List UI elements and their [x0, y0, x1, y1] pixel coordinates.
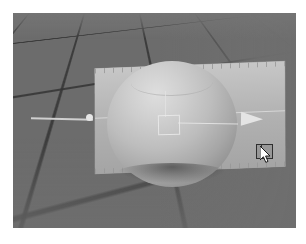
- manipulator-axis-vertical[interactable]: [165, 91, 166, 117]
- perspective-viewport[interactable]: [13, 13, 296, 228]
- sphere-contact-shadow: [117, 163, 227, 183]
- grid-horizon-fade: [13, 13, 296, 39]
- manipulator-arrow-cone-icon[interactable]: [241, 112, 263, 126]
- manipulator-handle-dot-icon[interactable]: [86, 114, 93, 121]
- mouse-cursor-icon: [260, 146, 272, 164]
- manipulator-center-square-icon[interactable]: [158, 115, 180, 135]
- figure-container: [0, 0, 306, 244]
